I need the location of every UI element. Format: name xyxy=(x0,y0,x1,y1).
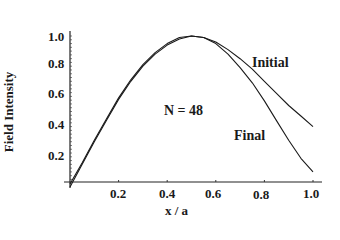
y-tick-label: 0.2 xyxy=(48,148,64,164)
x-tick-label: 0.6 xyxy=(205,186,221,202)
y-tick-label: 0.6 xyxy=(48,86,64,102)
x-axis-label: x / a xyxy=(165,203,188,219)
y-axis-label: Field Intensity xyxy=(1,72,17,153)
final-label: Final xyxy=(234,128,265,144)
y-tick-label: 0.8 xyxy=(48,56,64,72)
x-tick-label: 0.2 xyxy=(110,186,126,202)
x-tick-label: 0.8 xyxy=(253,187,269,203)
x-tick-label: 0.4 xyxy=(159,186,175,202)
y-tick-label: 0.4 xyxy=(48,117,64,133)
n-annotation: N = 48 xyxy=(164,103,203,119)
x-tick-label: 1.0 xyxy=(303,186,319,202)
y-tick-label: 1.0 xyxy=(48,29,64,45)
initial-label: Initial xyxy=(252,55,289,71)
